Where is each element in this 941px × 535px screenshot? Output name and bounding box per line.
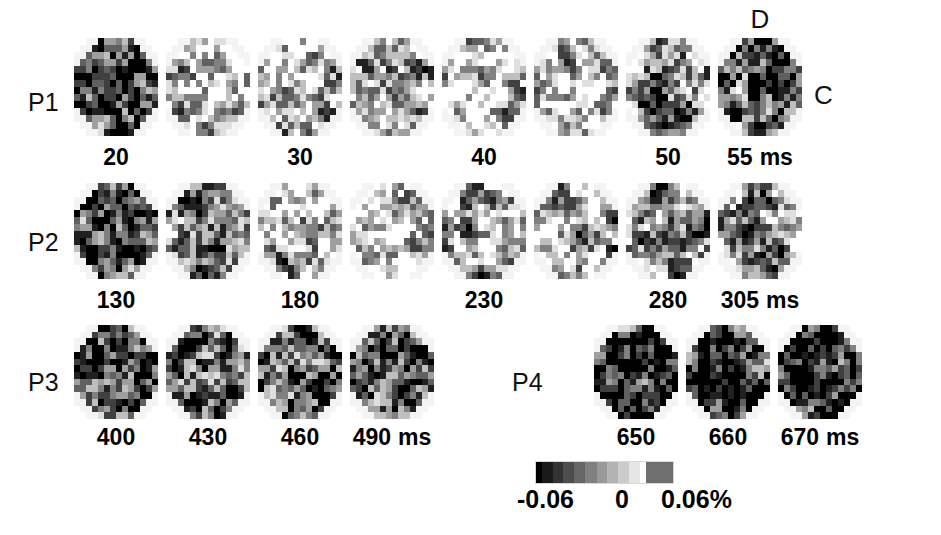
time-value: 40 (471, 144, 497, 170)
activity-map-canvas (442, 38, 526, 136)
activity-map-canvas (74, 325, 158, 419)
activity-map-canvas (626, 38, 710, 136)
activity-map-p4-1 (594, 325, 678, 419)
time-value: 430 (189, 424, 227, 450)
activity-map-canvas (350, 38, 434, 136)
activity-map-canvas (534, 38, 618, 136)
activity-map-p2-6 (534, 183, 618, 279)
activity-map-canvas (442, 183, 526, 279)
time-label-p4-3: 670ms (760, 424, 880, 451)
time-value: 280 (649, 287, 687, 313)
time-value: 650 (617, 424, 655, 450)
time-label-p2-8: 305ms (700, 287, 820, 314)
activity-map-p3-4 (350, 325, 434, 419)
activity-map-p1-7 (626, 38, 710, 136)
activity-map-p1-1 (74, 38, 158, 136)
time-value: 30 (287, 144, 313, 170)
activity-map-canvas (594, 325, 678, 419)
row-label-p1: P1 (28, 88, 59, 117)
activity-map-p1-4 (350, 38, 434, 136)
activity-map-p3-3 (258, 325, 342, 419)
activity-map-p4-3 (778, 325, 862, 419)
activity-map-p2-5 (442, 183, 526, 279)
activity-map-canvas (74, 38, 158, 136)
time-unit: ms (826, 424, 859, 450)
time-label-p1-1: 20 (56, 144, 176, 171)
activity-map-canvas (350, 183, 434, 279)
figure-root: P12030405055msP2130180230280305msP340043… (0, 0, 941, 535)
colorbar-max-label: 0.06% (661, 485, 732, 514)
time-label-p1-5: 40 (424, 144, 544, 171)
time-value: 20 (103, 144, 129, 170)
time-value: 660 (709, 424, 747, 450)
time-label-p2-5: 230 (424, 287, 544, 314)
activity-map-p2-8 (718, 183, 802, 279)
time-unit: ms (398, 424, 431, 450)
orientation-dorsal-label: D (751, 4, 770, 35)
activity-map-canvas (258, 183, 342, 279)
activity-map-canvas (778, 325, 862, 419)
activity-map-p2-1 (74, 183, 158, 279)
time-value: 460 (281, 424, 319, 450)
time-value: 130 (97, 287, 135, 313)
time-unit: ms (760, 144, 793, 170)
activity-map-canvas (534, 183, 618, 279)
orientation-caudal-label: C (814, 80, 833, 111)
activity-map-canvas (166, 38, 250, 136)
activity-map-canvas (626, 183, 710, 279)
activity-map-canvas (718, 183, 802, 279)
activity-map-p1-5 (442, 38, 526, 136)
activity-map-p4-2 (686, 325, 770, 419)
activity-map-canvas (258, 325, 342, 419)
row-label-p2: P2 (28, 228, 59, 257)
colorbar: -0.06 0 0.06% (533, 459, 773, 521)
time-label-p3-4: 490ms (332, 424, 452, 451)
time-value: 670 (781, 424, 819, 450)
time-value: 230 (465, 287, 503, 313)
time-value: 180 (281, 287, 319, 313)
activity-map-p2-4 (350, 183, 434, 279)
activity-map-p1-2 (166, 38, 250, 136)
colorbar-min-label: -0.06 (517, 485, 574, 514)
activity-map-canvas (166, 325, 250, 419)
time-unit: ms (766, 287, 799, 313)
row-label-p4: P4 (512, 368, 543, 397)
activity-map-p2-7 (626, 183, 710, 279)
activity-map-p1-6 (534, 38, 618, 136)
colorbar-mid-label: 0 (615, 485, 629, 514)
time-label-p2-1: 130 (56, 287, 176, 314)
activity-map-canvas (166, 183, 250, 279)
time-value: 490 (353, 424, 391, 450)
row-label-p3: P3 (28, 368, 59, 397)
time-value: 55 (727, 144, 753, 170)
activity-map-p3-1 (74, 325, 158, 419)
time-value: 400 (97, 424, 135, 450)
activity-map-p2-2 (166, 183, 250, 279)
time-label-p1-3: 30 (240, 144, 360, 171)
activity-map-canvas (718, 38, 802, 136)
colorbar-tick-labels: -0.06 0 0.06% (503, 485, 735, 517)
activity-map-p3-2 (166, 325, 250, 419)
activity-map-p1-3 (258, 38, 342, 136)
activity-map-p1-8 (718, 38, 802, 136)
time-value: 305 (721, 287, 759, 313)
time-value: 50 (655, 144, 681, 170)
activity-map-canvas (258, 38, 342, 136)
activity-map-p2-3 (258, 183, 342, 279)
activity-map-canvas (686, 325, 770, 419)
time-label-p2-3: 180 (240, 287, 360, 314)
colorbar-gradient-swatch (535, 461, 674, 484)
activity-map-canvas (74, 183, 158, 279)
activity-map-canvas (350, 325, 434, 419)
time-label-p1-8: 55ms (700, 144, 820, 171)
